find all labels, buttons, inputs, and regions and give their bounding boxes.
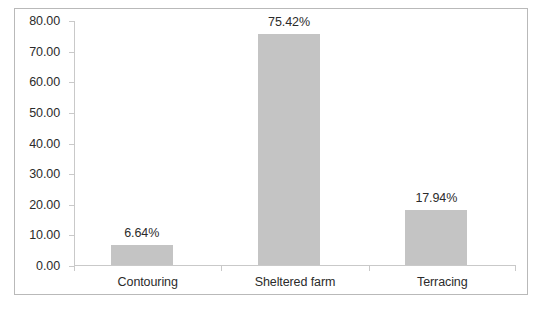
y-axis-label-10: 10.00: [29, 228, 60, 242]
y-tick-10: 10.00: [69, 235, 74, 236]
y-axis-label-60: 60.00: [29, 75, 60, 89]
bar-contouring[interactable]: 6.64%: [111, 245, 173, 265]
category-tick-3: [515, 266, 516, 271]
y-axis-label-0: 0.00: [36, 259, 60, 273]
y-axis-label-40: 40.00: [29, 137, 60, 151]
x-axis-line: [74, 265, 516, 266]
y-tick-20: 20.00: [69, 205, 74, 206]
category-tick-0: [74, 266, 75, 271]
bar-value-terracing: 17.94%: [415, 191, 457, 205]
y-tick-70: 70.00: [69, 52, 74, 53]
chart-frame: 80.00 70.00 60.00 50.00 40.00 30.00 20.0…: [14, 8, 528, 295]
y-tick-30: 30.00: [69, 174, 74, 175]
y-axis-label-50: 50.00: [29, 106, 60, 120]
y-axis-label-80: 80.00: [29, 14, 60, 28]
y-tick-40: 40.00: [69, 144, 74, 145]
plot-area: 80.00 70.00 60.00 50.00 40.00 30.00 20.0…: [74, 21, 516, 266]
y-axis-label-30: 30.00: [29, 167, 60, 181]
y-tick-50: 50.00: [69, 113, 74, 114]
category-label-contouring: Contouring: [118, 275, 178, 289]
y-axis-line: [74, 21, 75, 266]
category-tick-2: [369, 266, 370, 271]
figure-caption: [63, 303, 483, 311]
y-tick-60: 60.00: [69, 82, 74, 83]
y-axis-label-70: 70.00: [29, 45, 60, 59]
y-tick-80: 80.00: [69, 21, 74, 22]
category-label-terracing: Terracing: [417, 275, 468, 289]
bar-sheltered-farm[interactable]: 75.42%: [258, 34, 320, 265]
category-tick-1: [221, 266, 222, 271]
y-axis-label-20: 20.00: [29, 198, 60, 212]
category-label-sheltered-farm: Sheltered farm: [255, 275, 336, 289]
bar-terracing[interactable]: 17.94%: [405, 210, 467, 265]
bar-value-sheltered-farm: 75.42%: [268, 15, 310, 29]
bar-value-contouring: 6.64%: [124, 226, 159, 240]
